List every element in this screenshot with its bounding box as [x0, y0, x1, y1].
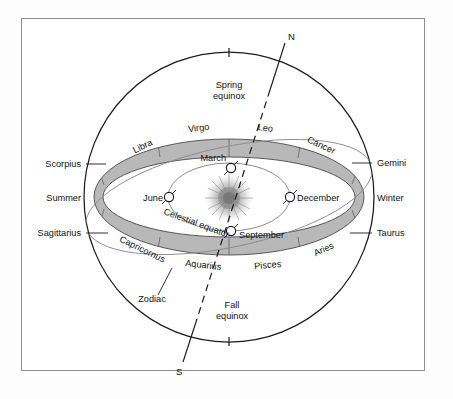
zodiac-label-leo: Leo [257, 122, 273, 134]
earth-label-march: March [200, 153, 226, 163]
spring-equinox-label-line1: Spring [216, 80, 243, 90]
north-pole-label: N [288, 31, 295, 42]
figure-root: N S Spring equinox Fall equinox Summer W… [0, 0, 453, 399]
zodiac-label-sagittarius: Sagittarius [38, 228, 82, 238]
spring-equinox-label-line2: equinox [213, 91, 246, 101]
zodiac-label-taurus: Taurus [377, 228, 405, 238]
season-label-winter: Winter [377, 193, 404, 203]
zodiac-label-scorpius: Scorpius [45, 159, 81, 169]
season-label-summer: Summer [46, 193, 81, 203]
earth-label-june: June [143, 193, 163, 203]
earth-label-december: December [297, 193, 339, 203]
earth-label-september: September [239, 230, 284, 240]
fall-equinox-label-line2: equinox [216, 311, 249, 321]
zodiac-label-gemini: Gemini [377, 158, 406, 168]
south-pole-label: S [176, 366, 182, 377]
fall-equinox-label-line1: Fall [225, 300, 240, 310]
celestial-sphere-diagram: N S Spring equinox Fall equinox Summer W… [0, 0, 453, 399]
sun-glyph [205, 174, 253, 222]
zodiac-callout-label: Zodiac [138, 294, 166, 304]
